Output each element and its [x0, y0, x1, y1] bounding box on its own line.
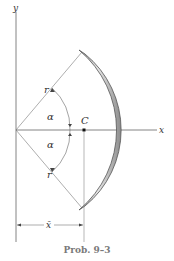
angle-tick-upper-icon — [68, 124, 72, 127]
centroid-label: C — [81, 115, 89, 126]
y-axis-label: y — [12, 3, 19, 13]
centroid-arc-diagram: y x r r α α C x̄ Prob. 9–3 — [0, 0, 174, 261]
xbar-arrow-right-icon — [79, 224, 83, 227]
angle-arc-lower — [52, 130, 70, 172]
radius-label-upper: r — [44, 84, 50, 95]
angle-arc-upper — [52, 88, 70, 130]
angle-label-upper: α — [47, 111, 54, 122]
x-axis-label: x — [159, 125, 164, 135]
xbar-arrow-left-icon — [17, 224, 21, 227]
figure-caption: Prob. 9–3 — [63, 245, 110, 255]
xbar-label: x̄ — [46, 220, 51, 230]
angle-tick-lower-icon — [68, 133, 72, 136]
angle-label-lower: α — [47, 139, 54, 150]
